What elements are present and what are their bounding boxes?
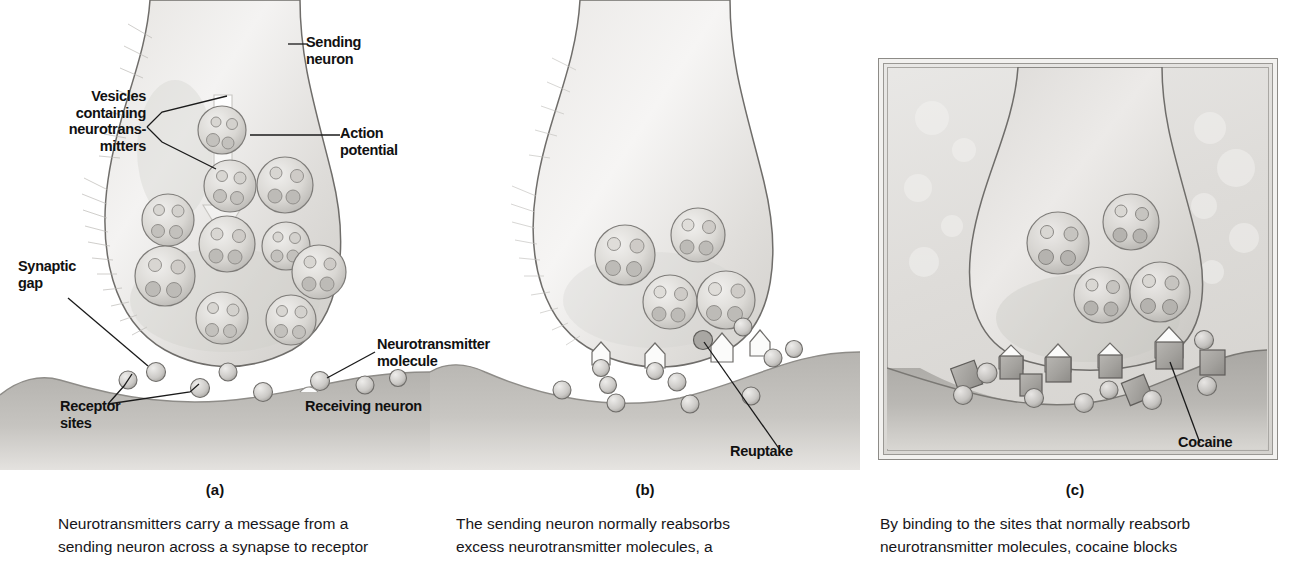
panel-c-artwork (860, 0, 1290, 470)
label-synaptic-gap: Synaptic gap (18, 258, 76, 291)
caption-line: sending neuron across a synapse to recep… (58, 535, 430, 558)
panel-b-caption: The sending neuron normally reabsorbs ex… (430, 512, 860, 558)
panel-c-illustration (860, 0, 1290, 470)
panel-b-artwork (430, 0, 860, 470)
sending-neuron-terminal (970, 67, 1203, 370)
caption-line: By binding to the sites that normally re… (880, 512, 1290, 535)
caption-line: excess neurotransmitter molecules, a (456, 535, 860, 558)
panel-b-letter: (b) (430, 481, 860, 498)
label-receiving-neuron: Receiving neuron (305, 398, 422, 415)
caption-line: neurotransmitter molecules, cocaine bloc… (880, 535, 1290, 558)
caption-line: The sending neuron normally reabsorbs (456, 512, 860, 535)
cocaine-bound (1156, 342, 1183, 369)
cocaine-bound (1099, 355, 1122, 378)
panel-c-caption: By binding to the sites that normally re… (860, 512, 1290, 558)
panel-c-letter: (c) (860, 481, 1290, 498)
molecule-being-reabsorbed (694, 331, 713, 350)
label-vesicles-containing-neurotransmitters: Vesicles containing neurotrans- mitters (14, 88, 146, 154)
label-cocaine: Cocaine (1178, 434, 1232, 451)
panel-a-letter: (a) (0, 481, 430, 498)
label-sending-neuron: Sending neuron (306, 34, 361, 67)
panel-b: Reuptake (b) The sending neuron normally… (430, 0, 860, 572)
caption-line: Neurotransmitters carry a message from a (58, 512, 430, 535)
cocaine-free (1200, 350, 1225, 375)
receiving-neuron-shape (430, 352, 860, 470)
panel-b-illustration (430, 0, 860, 470)
panel-a: Sending neuron Action potential Vesicles… (0, 0, 430, 572)
figure-canvas: Sending neuron Action potential Vesicles… (0, 0, 1290, 572)
cocaine-bound (1046, 357, 1071, 382)
panel-a-caption: Neurotransmitters carry a message from a… (0, 512, 430, 558)
panel-c: Cocaine (c) By binding to the sites that… (860, 0, 1290, 572)
label-reuptake: Reuptake (730, 443, 793, 460)
label-action-potential: Action potential (340, 125, 398, 158)
label-receptor-sites: Receptor sites (60, 398, 120, 431)
